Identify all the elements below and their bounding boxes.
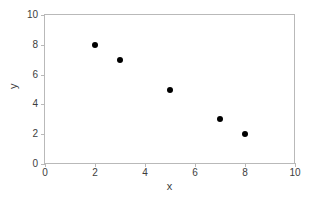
data-point	[217, 116, 223, 122]
data-point	[92, 42, 98, 48]
data-point	[167, 87, 173, 93]
y-tick-mark	[41, 75, 45, 76]
y-tick-label: 10	[27, 10, 38, 20]
y-tick-mark	[41, 45, 45, 46]
x-tick-label: 10	[289, 168, 300, 178]
y-tick-mark	[41, 104, 45, 105]
x-tick-label: 4	[142, 168, 148, 178]
y-tick-label: 0	[32, 159, 38, 169]
scatter-chart: 0246810 0246810 y x	[0, 0, 321, 202]
y-tick-mark	[41, 134, 45, 135]
x-tick-label: 6	[192, 168, 198, 178]
x-tick-label: 2	[92, 168, 98, 178]
data-point	[117, 57, 123, 63]
y-tick-mark	[41, 15, 45, 16]
x-axis-title: x	[44, 181, 295, 192]
y-tick-label: 2	[32, 129, 38, 139]
y-tick-label: 4	[32, 99, 38, 109]
y-tick-label: 8	[32, 40, 38, 50]
plot-area: 0246810 0246810	[44, 14, 295, 164]
y-tick-label: 6	[32, 70, 38, 80]
x-tick-label: 0	[42, 168, 48, 178]
y-axis-title: y	[8, 84, 19, 90]
data-point	[242, 131, 248, 137]
x-tick-label: 8	[242, 168, 248, 178]
